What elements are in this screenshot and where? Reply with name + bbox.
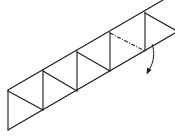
top-edge xyxy=(8,0,163,90)
diagonal-crease-3 xyxy=(77,52,110,71)
diagonal-crease-2 xyxy=(43,71,77,91)
bottom-edge xyxy=(8,33,175,130)
diagonal-crease-4 xyxy=(145,13,175,30)
diagonal-crease-1 xyxy=(8,91,43,110)
folding-diagram xyxy=(0,0,175,140)
valley-fold-line xyxy=(110,33,145,51)
strip-outline xyxy=(8,0,175,130)
panel-diagonals xyxy=(8,13,175,110)
